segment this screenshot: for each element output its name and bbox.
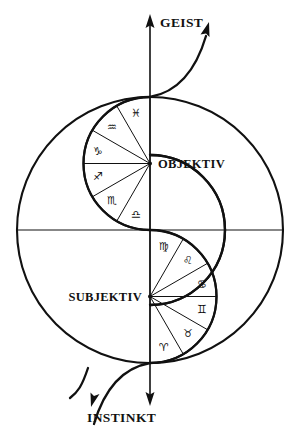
zodiac-virgo-glyph: ♍ [159,240,169,253]
zodiac-libra-glyph: ♎ [131,208,141,221]
label-geist: GEIST [160,15,203,30]
s-curve-bottom-arrow-icon [91,393,100,408]
zodiac-scorpio-glyph: ♏ [107,194,117,207]
zodiac-capricorn-glyph: ♑ [93,145,103,158]
zodiac-aries-glyph: ♈ [159,341,169,354]
label-subjektiv: SUBJEKTIV [68,290,142,304]
zodiac-leo-glyph: ♌ [183,254,193,267]
s-curve-tail-bottom [70,368,88,398]
zodiac-taurus-glyph: ♉ [183,327,193,340]
label-instinkt: INSTINKT [87,410,156,425]
zodiac-gemini-glyph: ♊ [197,303,207,316]
yin-yang-zodiac-diagram: ♓ ♒ ♑ ♐ ♏ ♎ ♍ ♌ ♋ ♊ ♉ ♈ GEIST INSTINKT O… [0,0,296,429]
s-curve-extension-top [150,36,206,97]
label-objektiv: OBJEKTIV [158,157,225,171]
zodiac-aquarius-glyph: ♒ [107,121,117,134]
diagram-canvas: ♓ ♒ ♑ ♐ ♏ ♎ ♍ ♌ ♋ ♊ ♉ ♈ GEIST INSTINKT O… [0,0,296,429]
zodiac-cancer-glyph: ♋ [197,278,207,291]
zodiac-sagittarius-glyph: ♐ [93,170,103,183]
zodiac-pisces-glyph: ♓ [131,107,141,120]
